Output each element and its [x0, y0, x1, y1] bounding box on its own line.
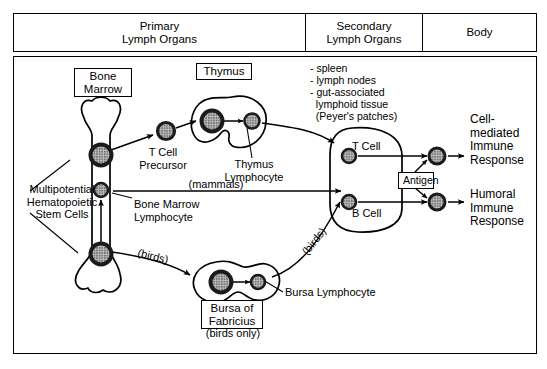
bursa-lymphocyte-label: Bursa Lymphocyte	[285, 286, 390, 299]
cell-bursa-left	[211, 272, 232, 293]
antigen-label-box: Antigen	[398, 172, 434, 189]
thymus-label-box: Thymus	[196, 63, 252, 80]
cell-stem-upper	[91, 145, 112, 166]
cell-activated-b-cell	[429, 194, 445, 210]
secondary-organs-list: - spleen - lymph nodes - gut-associated …	[310, 62, 415, 122]
bursa-label: Bursa of Fabricius	[209, 302, 256, 327]
cell-t-cell-precursor	[158, 123, 175, 140]
cell-bursa-lymphocyte	[251, 275, 265, 289]
t-cell-label: T Cell	[352, 140, 381, 153]
cell-mediated-response-label: Cell- mediated Immune Response	[470, 113, 536, 167]
thymus-label: Thymus	[204, 65, 245, 77]
t-cell-precursor-label: T Cell Precursor	[134, 146, 192, 171]
cell-thymus-left	[202, 111, 223, 132]
cell-thymus-lymphocyte	[245, 114, 260, 129]
humoral-response-label: Humoral Immune Response	[470, 188, 536, 229]
b-cell-label: B Cell	[352, 207, 381, 220]
bone-marrow-lymphocyte-label: Bone Marrow Lymphocyte	[134, 198, 224, 223]
antigen-label: Antigen	[403, 174, 439, 186]
bone-marrow-label-box: Bone Marrow	[74, 68, 132, 97]
diagram-canvas: Primary Lymph Organs Secondary Lymph Org…	[0, 0, 547, 369]
bone-marrow-label: Bone Marrow	[84, 70, 122, 95]
mammals-pathway-label: (mammals)	[184, 178, 248, 191]
cell-activated-t-cell	[429, 148, 445, 164]
bursa-label-box: Bursa of Fabricius	[201, 300, 263, 329]
stem-cells-label: Multipotential Hematopoietic Stem Cells	[14, 183, 110, 221]
cell-stem-lower	[91, 244, 112, 265]
